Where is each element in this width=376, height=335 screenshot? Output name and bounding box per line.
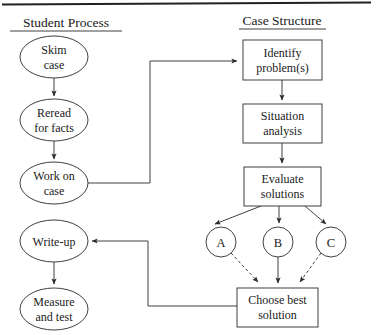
node-evaluate-solutions[interactable]: Evaluate solutions — [244, 167, 321, 206]
heading-case-structure-label: Case Structure — [242, 13, 321, 28]
node-option-b-label: B — [274, 236, 282, 250]
node-situation-analysis-line-2: analysis — [263, 124, 302, 138]
node-measure-and-test-line-2: and test — [36, 310, 74, 324]
node-option-b[interactable]: B — [263, 227, 293, 257]
edge-evaluate-to-a — [215, 206, 261, 224]
node-skim-case-line-2: case — [44, 58, 65, 72]
node-reread-for-facts[interactable]: Reread for facts — [20, 99, 88, 141]
node-choose-best-solution-line-2: solution — [258, 308, 297, 322]
node-evaluate-solutions-line-1: Evaluate — [262, 172, 304, 186]
heading-student-process-label: Student Process — [23, 15, 109, 30]
node-write-up-line-1: Write-up — [33, 235, 76, 249]
node-work-on-case-line-2: case — [44, 184, 65, 198]
edge-work-to-identify — [88, 61, 237, 183]
node-option-c-label: C — [327, 236, 335, 250]
diagram-canvas: Student Process Case Structure — [0, 0, 376, 335]
node-reread-for-facts-line-2: for facts — [34, 121, 74, 135]
node-option-a[interactable]: A — [206, 227, 236, 257]
node-identify-problems[interactable]: Identify problem(s) — [243, 40, 322, 80]
node-option-c[interactable]: C — [316, 227, 346, 257]
edge-a-to-choose — [231, 253, 258, 282]
node-write-up[interactable]: Write-up — [20, 220, 88, 262]
node-situation-analysis[interactable]: Situation analysis — [243, 104, 322, 143]
node-identify-problems-line-2: problem(s) — [256, 61, 309, 75]
node-choose-best-solution-line-1: Choose best — [248, 293, 307, 307]
heading-case-structure: Case Structure — [239, 13, 326, 29]
heading-student-process: Student Process — [10, 15, 122, 31]
node-measure-and-test-line-1: Measure — [33, 295, 74, 309]
node-identify-problems-line-1: Identify — [264, 46, 302, 60]
edge-c-to-choose — [300, 253, 321, 282]
node-situation-analysis-line-1: Situation — [261, 109, 304, 123]
node-reread-for-facts-line-1: Reread — [37, 106, 71, 120]
node-option-a-label: A — [216, 236, 225, 250]
top-rule-divider — [2, 3, 371, 5]
node-work-on-case-line-1: Work on — [33, 169, 74, 183]
flow-diagram: Student Process Case Structure — [0, 0, 376, 335]
node-work-on-case[interactable]: Work on case — [20, 162, 88, 204]
node-choose-best-solution[interactable]: Choose best solution — [237, 288, 318, 327]
node-skim-case-line-1: Skim — [41, 43, 67, 57]
node-measure-and-test[interactable]: Measure and test — [20, 288, 88, 330]
edge-evaluate-to-c — [305, 206, 326, 224]
node-skim-case[interactable]: Skim case — [20, 36, 88, 78]
node-evaluate-solutions-line-2: solutions — [261, 187, 305, 201]
